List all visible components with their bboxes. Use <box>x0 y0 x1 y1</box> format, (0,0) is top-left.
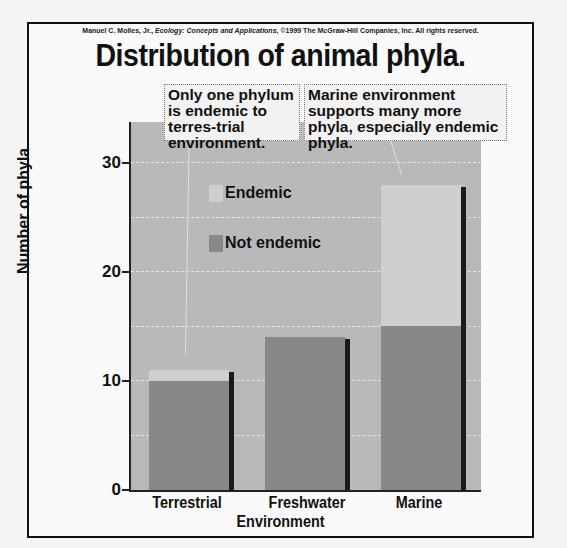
credit-book: Ecology: Concepts and Applications <box>155 27 276 34</box>
callout-marine: Marine environment supports many more ph… <box>304 84 507 141</box>
x-tick-label-freshwater: Freshwater <box>258 494 357 512</box>
legend-label-endemic: Endemic <box>225 184 292 202</box>
y-tick-label: 10 <box>102 371 121 391</box>
bar-marine <box>381 185 461 490</box>
y-tick <box>122 489 129 491</box>
y-tick <box>122 162 129 164</box>
bar-shadow <box>461 187 466 490</box>
gridline <box>131 162 481 163</box>
bar-shadow <box>345 339 350 490</box>
credit-rest: , ©1999 The McGraw-Hill Companies, Inc. … <box>277 27 479 34</box>
bar-segment-not-endemic <box>381 326 461 490</box>
callout-terrestrial: Only one phylum is endemic to terres-tri… <box>164 84 300 141</box>
bar-segment-not-endemic <box>265 337 345 490</box>
legend-item-endemic: Endemic <box>209 184 292 202</box>
bar-shadow <box>229 372 234 490</box>
legend-item-not-endemic: Not endemic <box>209 234 321 252</box>
bar-freshwater <box>265 337 345 490</box>
x-tick-label-marine: Marine <box>379 494 460 512</box>
plot-area: 0 10 20 30 Endemic Not endemic <box>129 122 481 492</box>
bar-segment-not-endemic <box>149 381 229 490</box>
legend-swatch-endemic <box>209 185 223 202</box>
y-axis-title: Number of phyla <box>15 148 33 274</box>
y-tick-label: 0 <box>112 480 121 500</box>
legend-label-not-endemic: Not endemic <box>225 234 321 252</box>
credit-line: Manuel C. Molles, Jr., Ecology: Concepts… <box>29 27 532 34</box>
credit-author: Manuel C. Molles, Jr., <box>82 27 155 34</box>
y-tick-label: 30 <box>102 153 121 173</box>
chart-title: Distribution of animal phyla. <box>49 38 512 74</box>
bar-segment-endemic <box>149 370 229 381</box>
bar-segment-endemic <box>381 185 461 326</box>
x-axis-title: Environment <box>54 513 507 531</box>
y-tick-label: 20 <box>102 262 121 282</box>
y-tick <box>122 271 129 273</box>
y-tick <box>122 380 129 382</box>
callout-pointer-terrestrial <box>185 122 190 354</box>
legend-swatch-not-endemic <box>209 235 223 252</box>
figure-frame: Manuel C. Molles, Jr., Ecology: Concepts… <box>27 22 534 538</box>
x-tick-label-terrestrial: Terrestrial <box>142 494 232 512</box>
bar-terrestrial <box>149 370 229 490</box>
